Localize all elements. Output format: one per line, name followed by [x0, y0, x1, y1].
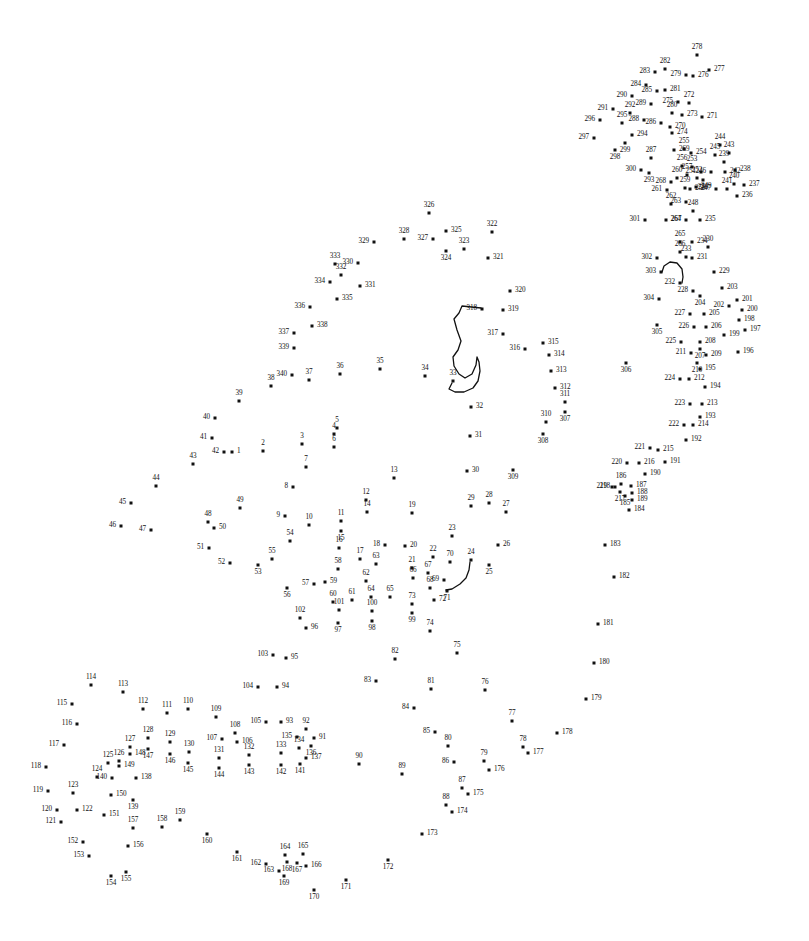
dot-label-232: 232 [665, 279, 676, 286]
dot-label-91: 91 [318, 734, 326, 741]
dot-209 [705, 354, 708, 357]
dot-206 [705, 326, 708, 329]
dot-label-231: 231 [696, 254, 707, 261]
dot-254 [690, 152, 693, 155]
dot-52 [229, 562, 232, 565]
dot-157 [132, 827, 135, 830]
dot-label-17: 17 [357, 548, 364, 555]
dot-79 [483, 760, 486, 763]
dot-label-27: 27 [503, 501, 510, 508]
dot-51 [208, 547, 211, 550]
dot-label-213: 213 [706, 400, 717, 407]
dot-86 [453, 761, 456, 764]
dot-label-292: 292 [625, 102, 635, 109]
dot-72 [433, 599, 436, 602]
dot-label-266: 266 [675, 241, 685, 248]
dot-label-242: 242 [729, 168, 740, 175]
dot-label-189: 189 [636, 496, 647, 503]
dot-label-79: 79 [481, 750, 488, 757]
dot-label-109: 109 [211, 706, 221, 713]
dot-label-259: 259 [680, 177, 690, 184]
dot-label-137: 137 [310, 754, 321, 761]
dot-label-28: 28 [486, 492, 493, 499]
dot-84 [413, 707, 416, 710]
dot-label-181: 181 [602, 620, 613, 627]
dot-label-241: 241 [722, 178, 732, 185]
dot-122 [76, 809, 79, 812]
dot-77 [511, 720, 514, 723]
dot-228 [692, 290, 695, 293]
dot-label-314: 314 [553, 351, 564, 358]
dot-label-46: 46 [109, 522, 117, 529]
dot-label-316: 316 [510, 345, 521, 352]
dot-227 [689, 313, 692, 316]
dot-128 [147, 737, 150, 740]
dot-65 [389, 596, 392, 599]
dot-label-206: 206 [710, 323, 721, 330]
dot-label-299: 299 [620, 147, 630, 154]
dot-305 [656, 324, 659, 327]
dot-label-234: 234 [696, 238, 707, 245]
dot-label-34: 34 [422, 365, 429, 372]
dot-200 [741, 309, 744, 312]
dot-label-271: 271 [706, 113, 717, 120]
dot-320 [509, 290, 512, 293]
dot-222 [683, 424, 686, 427]
dot-115 [71, 703, 74, 706]
dot-label-296: 296 [585, 116, 596, 123]
dot-224 [679, 378, 682, 381]
dot-label-301: 301 [630, 216, 641, 223]
dot-285 [656, 90, 659, 93]
dot-180 [593, 662, 596, 665]
dot-232 [679, 282, 682, 285]
dot-114 [90, 684, 93, 687]
dot-188 [631, 492, 634, 495]
dot-111 [166, 712, 169, 715]
dot-label-174: 174 [456, 808, 467, 815]
dot-label-229: 229 [718, 268, 729, 275]
dot-label-87: 87 [459, 777, 466, 784]
dot-313 [550, 370, 553, 373]
dot-329 [373, 241, 376, 244]
dot-134 [298, 747, 301, 750]
dot-label-255: 255 [679, 138, 689, 145]
dot-label-143: 143 [244, 769, 254, 776]
dot-177 [527, 752, 530, 755]
dot-116 [76, 723, 79, 726]
dot-297 [593, 137, 596, 140]
dot-96 [305, 627, 308, 630]
dot-label-318: 318 [467, 305, 478, 312]
dot-label-328: 328 [399, 228, 409, 235]
dot-270 [669, 126, 672, 129]
dot-331 [359, 285, 362, 288]
dot-label-23: 23 [449, 525, 456, 532]
dot-182 [613, 576, 616, 579]
dot-label-47: 47 [139, 526, 147, 533]
dot-17 [359, 558, 362, 561]
dot-label-319: 319 [507, 306, 518, 313]
dot-248 [692, 210, 695, 213]
dot-80 [447, 745, 450, 748]
dot-189 [631, 499, 634, 502]
dot-39 [238, 400, 241, 403]
dot-label-339: 339 [279, 344, 290, 351]
dot-155 [125, 871, 128, 874]
dot-label-267: 267 [670, 216, 681, 223]
dot-label-95: 95 [290, 654, 298, 661]
dot-label-279: 279 [671, 71, 682, 78]
dot-label-149: 149 [123, 762, 134, 769]
dot-label-119: 119 [33, 787, 44, 794]
dot-label-313: 313 [555, 367, 566, 374]
dot-314 [548, 354, 551, 357]
dot-label-298: 298 [610, 154, 620, 161]
dot-label-198: 198 [743, 316, 754, 323]
dot-label-337: 337 [279, 329, 290, 336]
dot-label-16: 16 [336, 537, 343, 544]
dot-272 [688, 102, 691, 105]
dot-290 [631, 95, 634, 98]
dot-label-81: 81 [428, 678, 435, 685]
dot-129 [169, 741, 172, 744]
dot-142 [280, 764, 283, 767]
dot-label-22: 22 [430, 546, 437, 553]
dot-label-90: 90 [356, 753, 363, 760]
